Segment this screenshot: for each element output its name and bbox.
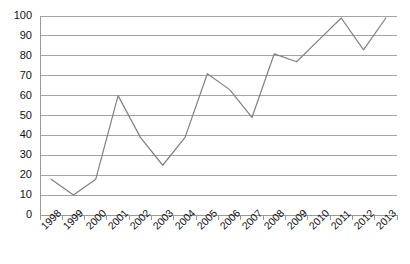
y-axis-tick-label: 100 xyxy=(2,10,32,21)
y-axis-tick-label: 30 xyxy=(2,149,32,160)
y-axis-tick-label: 90 xyxy=(2,30,32,41)
y-axis-tick-label: 0 xyxy=(2,209,32,220)
y-axis-tick-label: 50 xyxy=(2,110,32,121)
y-axis-tick-label: 60 xyxy=(2,90,32,101)
y-axis-tick-label: 20 xyxy=(2,169,32,180)
y-axis-tick-label: 10 xyxy=(2,189,32,200)
line-chart: 0102030405060708090100 19981999200020012… xyxy=(0,0,410,264)
y-axis-tick-label: 70 xyxy=(2,70,32,81)
y-axis-tick-label: 80 xyxy=(2,50,32,61)
data-series-line xyxy=(51,18,386,195)
y-axis-tick-label: 40 xyxy=(2,129,32,140)
